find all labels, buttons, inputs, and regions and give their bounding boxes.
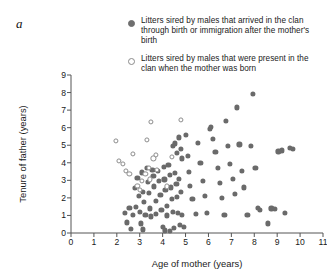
filled-circle-icon (128, 20, 135, 27)
legend-item-filled: Litters sired by males that arrived in t… (128, 16, 324, 47)
x-axis-ticks (71, 233, 323, 237)
x-tick-label: 10 (295, 238, 305, 247)
y-tick-label: 2 (61, 193, 66, 202)
legend: Litters sired by males that arrived in t… (128, 16, 324, 81)
x-axis-label: Age of mother (years) (152, 258, 243, 269)
y-tick-label: 0 (61, 229, 66, 238)
y-tick-label: 1 (61, 211, 66, 220)
panel-label: a (16, 16, 23, 32)
x-tick-label: 7 (229, 238, 234, 247)
x-tick-label: 1 (92, 238, 97, 247)
y-tick-label: 3 (61, 176, 66, 185)
x-tick-label: 8 (252, 238, 257, 247)
y-axis-label: Tenure of father (years) (17, 105, 28, 202)
y-tick-label: 9 (61, 71, 66, 80)
legend-item-label: Litters sired by males that were present… (141, 54, 324, 74)
y-tick-label: 5 (61, 141, 66, 150)
legend-item-open: Litters sired by males that were present… (128, 54, 324, 74)
x-tick-label: 2 (114, 238, 119, 247)
y-tick-label: 7 (61, 106, 66, 115)
y-tick-label: 4 (61, 158, 66, 167)
x-tick-label: 5 (183, 238, 188, 247)
legend-item-label: Litters sired by males that arrived in t… (141, 16, 324, 47)
x-tick-label: 3 (137, 238, 142, 247)
x-tick-label: 9 (275, 238, 280, 247)
y-tick-label: 8 (61, 88, 66, 97)
open-circle-icon (128, 58, 135, 65)
x-tick-label: 11 (319, 238, 327, 247)
scatter-plot-area: 012345678901234567891011 (71, 75, 323, 233)
x-tick-label: 4 (160, 238, 165, 247)
x-tick-label: 0 (69, 238, 74, 247)
y-axis-ticks (67, 75, 71, 233)
x-tick-label: 6 (206, 238, 211, 247)
y-tick-label: 6 (61, 123, 66, 132)
